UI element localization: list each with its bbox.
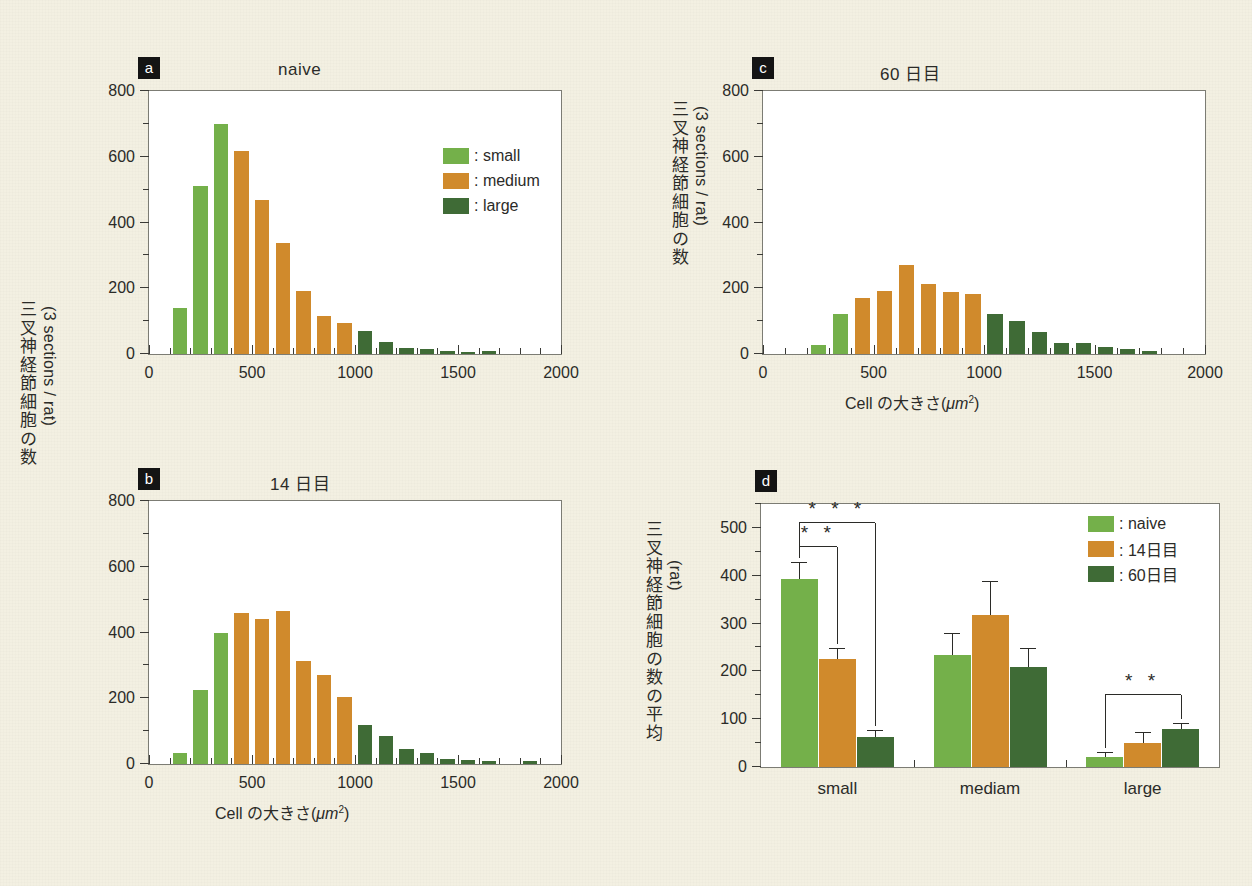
error-bar-mediam-60日目 [1028, 649, 1029, 667]
y-tick-d-500 [752, 527, 761, 528]
bar-d-large-naive [1086, 757, 1123, 767]
bar-d-small-60日目 [857, 737, 894, 767]
panel-d-y-axis-label: 三叉神経節細胞の数の平均 (rat) [640, 520, 684, 742]
error-bar-large-60日目 [1181, 724, 1182, 728]
bar-d-large-14日目 [1124, 743, 1161, 767]
error-bar-small-60日目 [875, 731, 876, 738]
sig-small-naive-60-stars: * * * [808, 498, 866, 520]
y-tick-d-550 [755, 503, 761, 504]
legend-label-14day: : 14日目 [1119, 537, 1178, 561]
error-bar-mediam-naive [952, 634, 953, 655]
sig-small-naive-14-top [799, 546, 837, 547]
y-tick-d-300 [752, 623, 761, 624]
sig-large-naive-60-legB [1181, 695, 1182, 719]
y-tick-d-150 [755, 694, 761, 695]
category-label-large: large [1124, 779, 1162, 799]
panel-d-y-axis-label-unit: (rat) [666, 560, 684, 591]
error-bar-large-14日目 [1143, 733, 1144, 743]
sig-small-naive-60-legB [875, 523, 876, 726]
bar-d-mediam-naive [934, 655, 971, 767]
sig-small-naive-14-legB [837, 547, 838, 644]
error-cap-large-60日目 [1173, 723, 1189, 724]
panel-d-tag: d [755, 470, 777, 492]
sig-small-naive-60-top [799, 522, 875, 523]
bar-d-mediam-60日目 [1010, 667, 1047, 767]
error-cap-mediam-60日目 [1020, 648, 1036, 649]
error-cap-large-14日目 [1135, 732, 1151, 733]
figure-caption-remnant [18, 874, 22, 884]
group-sep-2 [1066, 760, 1067, 767]
bar-d-mediam-14日目 [972, 615, 1009, 767]
bar-d-small-14日目 [819, 659, 856, 767]
error-cap-large-naive [1097, 752, 1113, 753]
panel-c-tag: c [752, 57, 774, 79]
error-cap-small-naive [791, 562, 807, 563]
error-bar-small-naive [799, 563, 800, 578]
panel-a-tag: a [138, 57, 160, 79]
y-tick-label-d-500: 500 [720, 519, 747, 537]
panel-d-y-axis-label-jp: 三叉神経節細胞の数の平均 [640, 520, 665, 742]
error-cap-small-14日目 [829, 648, 845, 649]
sig-large-naive-60-legA [1105, 695, 1106, 747]
error-bar-large-naive [1105, 753, 1106, 758]
panel-b-tag: b [138, 468, 160, 490]
error-cap-small-60日目 [867, 730, 883, 731]
legend-label-60day: : 60日目 [1119, 562, 1178, 586]
legend-swatch-14day [1088, 541, 1114, 557]
sig-small-naive-60-legA [799, 523, 800, 558]
y-tick-label-d-400: 400 [720, 567, 747, 585]
error-bar-small-14日目 [837, 649, 838, 660]
y-tick-d-200 [752, 670, 761, 671]
category-label-mediam: mediam [960, 779, 1020, 799]
sig-small-naive-14-stars: * * [801, 522, 836, 544]
panel-d: 三叉神経節細胞の数の平均 (rat) d 0100200300400500sma… [0, 0, 1252, 886]
y-tick-d-0 [752, 766, 761, 767]
y-tick-label-d-100: 100 [720, 710, 747, 728]
y-tick-label-d-300: 300 [720, 615, 747, 633]
group-sep-1 [914, 760, 915, 767]
error-cap-mediam-naive [944, 633, 960, 634]
bar-d-small-naive [781, 579, 818, 767]
category-label-small: small [817, 779, 857, 799]
y-tick-d-400 [752, 575, 761, 576]
legend-swatch-naive [1088, 516, 1114, 532]
figure-root: 三叉神経節細胞の数 (3 sections / rat) a naive 020… [0, 0, 1252, 886]
y-tick-d-250 [755, 646, 761, 647]
panel-d-legend: : naive : 14日目 : 60日目 [1088, 513, 1178, 588]
y-tick-d-350 [755, 599, 761, 600]
y-tick-d-100 [752, 718, 761, 719]
legend-item-naive: : naive [1088, 513, 1178, 535]
sig-large-naive-60-top [1105, 694, 1181, 695]
legend-item-14day: : 14日目 [1088, 538, 1178, 560]
error-bar-mediam-14日目 [990, 582, 991, 615]
legend-swatch-60day [1088, 566, 1114, 582]
bar-d-large-60日目 [1162, 729, 1199, 767]
legend-label-naive: : naive [1119, 515, 1166, 533]
legend-item-60day: : 60日目 [1088, 563, 1178, 585]
y-tick-d-50 [755, 742, 761, 743]
y-tick-label-d-0: 0 [738, 758, 747, 776]
y-tick-d-450 [755, 551, 761, 552]
y-tick-label-d-200: 200 [720, 662, 747, 680]
sig-large-naive-60-stars: * * [1125, 670, 1160, 692]
error-cap-mediam-14日目 [982, 581, 998, 582]
